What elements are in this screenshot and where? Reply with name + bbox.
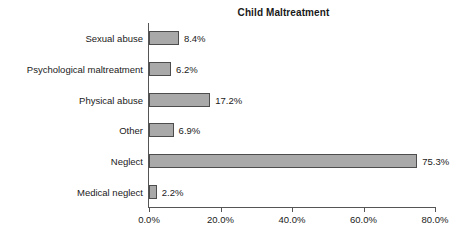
bar-row: Medical neglect 2.2% — [149, 176, 434, 207]
category-label: Medical neglect — [77, 186, 143, 197]
bar — [149, 93, 210, 107]
bar-row: Psychological maltreatment 6.2% — [149, 54, 434, 85]
bar-row: Physical abuse 17.2% — [149, 84, 434, 115]
x-axis-tick — [221, 207, 222, 212]
value-label: 2.2% — [162, 186, 184, 197]
bar-row: Other 6.9% — [149, 115, 434, 146]
value-label: 6.2% — [176, 63, 198, 74]
category-label: Other — [119, 125, 143, 136]
value-label: 75.3% — [422, 155, 449, 166]
category-label: Neglect — [111, 155, 143, 166]
x-axis-tick-label: 80.0% — [422, 214, 449, 225]
chart-title: Child Maltreatment — [0, 7, 467, 18]
x-axis-tick — [292, 207, 293, 212]
plot-area: Sexual abuse 8.4% Psychological maltreat… — [149, 23, 434, 207]
x-axis-tick — [435, 207, 436, 212]
value-label: 17.2% — [215, 94, 242, 105]
category-label: Sexual abuse — [85, 33, 143, 44]
value-label: 8.4% — [184, 33, 206, 44]
x-axis-tick-label: 0.0% — [138, 214, 160, 225]
bar — [149, 185, 157, 199]
chart-container: Child Maltreatment Sexual abuse 8.4% Psy… — [0, 0, 467, 245]
bar-row: Neglect 75.3% — [149, 146, 434, 177]
x-axis-tick-label: 60.0% — [350, 214, 377, 225]
bar — [149, 154, 417, 168]
category-label: Psychological maltreatment — [27, 63, 143, 74]
value-label: 6.9% — [179, 125, 201, 136]
category-label: Physical abuse — [79, 94, 143, 105]
bar-row: Sexual abuse 8.4% — [149, 23, 434, 54]
bar — [149, 123, 174, 137]
bar — [149, 62, 171, 76]
x-axis-tick-label: 20.0% — [207, 214, 234, 225]
x-axis-tick — [364, 207, 365, 212]
x-axis-tick-label: 40.0% — [279, 214, 306, 225]
x-axis-tick — [149, 207, 150, 212]
bar — [149, 31, 179, 45]
